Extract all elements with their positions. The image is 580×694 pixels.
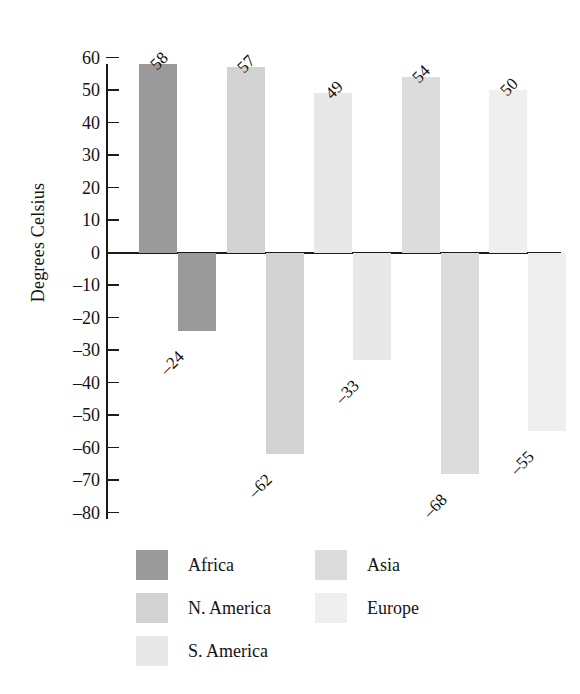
bar-value-label: –55 (507, 448, 537, 478)
legend-label: N. America (188, 598, 271, 619)
bar-negative (178, 253, 216, 331)
bar-negative (441, 253, 479, 474)
bar-chart: Degrees Celsius 6050403020100–10–20–30–4… (0, 0, 580, 694)
legend-item[interactable]: S. America (136, 636, 268, 666)
legend-swatch (315, 593, 347, 623)
y-axis-tick (106, 122, 119, 124)
bar-positive (139, 64, 177, 253)
bar-value-label: –33 (332, 377, 362, 407)
y-axis-tick-label: –50 (34, 406, 100, 424)
legend-item[interactable]: Asia (315, 550, 400, 580)
legend-label: Africa (188, 555, 234, 576)
bar-positive (402, 77, 440, 253)
bar-negative (528, 253, 566, 432)
bar-positive (314, 93, 352, 252)
y-axis-tick (106, 284, 119, 286)
y-axis-tick-label: 50 (34, 81, 100, 99)
y-axis-tick-label: 60 (34, 49, 100, 67)
legend-item[interactable]: N. America (136, 593, 271, 623)
y-axis-tick (106, 219, 119, 221)
y-axis-tick (106, 252, 119, 254)
legend-label: Asia (367, 555, 400, 576)
bar-value-label: –24 (157, 347, 187, 377)
y-axis-tick-label: 40 (34, 114, 100, 132)
y-axis-tick-label: 0 (34, 244, 100, 262)
y-axis-tick-label: –20 (34, 309, 100, 327)
y-axis-tick-label: –80 (34, 504, 100, 522)
y-axis-tick (106, 89, 119, 91)
y-axis-tick (106, 317, 119, 319)
y-axis-tick-label: –30 (34, 341, 100, 359)
legend-label: Europe (367, 598, 419, 619)
legend-swatch (136, 550, 168, 580)
legend-swatch (136, 593, 168, 623)
y-axis-tick (106, 479, 119, 481)
bar-value-label: –62 (244, 471, 274, 501)
y-axis-tick (106, 447, 119, 449)
bar-positive (227, 67, 265, 252)
y-axis-tick-label: 10 (34, 211, 100, 229)
y-axis-tick (106, 57, 119, 59)
y-axis-tick (106, 349, 119, 351)
y-axis-tick-label: –60 (34, 439, 100, 457)
y-axis-line (106, 64, 108, 519)
legend-label: S. America (188, 641, 268, 662)
y-axis-tick (106, 512, 119, 514)
legend-item[interactable]: Europe (315, 593, 419, 623)
legend-swatch (315, 550, 347, 580)
bar-negative (353, 253, 391, 360)
y-axis-tick-label: 20 (34, 179, 100, 197)
legend-item[interactable]: Africa (136, 550, 234, 580)
y-axis-tick (106, 187, 119, 189)
y-axis-tick-label: –10 (34, 276, 100, 294)
y-axis-tick (106, 382, 119, 384)
bar-positive (489, 90, 527, 253)
y-axis-tick-label: –40 (34, 374, 100, 392)
bar-value-label: –68 (419, 490, 449, 520)
legend-swatch (136, 636, 168, 666)
bar-negative (266, 253, 304, 455)
y-axis-tick (106, 154, 119, 156)
y-axis-tick-label: 30 (34, 146, 100, 164)
y-axis-tick (106, 414, 119, 416)
y-axis-tick-label: –70 (34, 471, 100, 489)
